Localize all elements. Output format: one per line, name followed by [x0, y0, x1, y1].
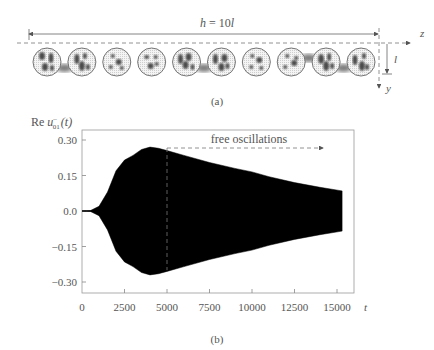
x-tick-label: 2500	[114, 301, 137, 313]
particle-outline	[33, 48, 61, 76]
particle-blob	[249, 65, 253, 69]
particle	[68, 48, 96, 76]
particle-blob	[111, 54, 115, 58]
particle-blob	[74, 54, 79, 64]
particle-blob	[50, 65, 54, 71]
x-tick-label: 15000	[323, 301, 351, 313]
particle-row	[33, 48, 375, 76]
y-tick-label: 0.30	[58, 134, 78, 146]
y-ticks: 0.300.150.0−0.15−0.30	[52, 134, 86, 288]
free-osc-label: free oscillations	[211, 132, 288, 146]
y-title-sub: 01	[53, 123, 61, 131]
y-title-sup: –	[52, 115, 57, 123]
particle-blob	[83, 53, 87, 59]
z-axis-label: z	[419, 27, 425, 39]
particle-blob	[144, 55, 149, 59]
figure: h = 10l z y l (a) Re u–01(t) 0.300.150.0…	[0, 0, 434, 350]
y-axis-title: Re u–01(t)	[31, 115, 72, 131]
panel-b: Re u–01(t) 0.300.150.0−0.15−0.30 0250050…	[31, 115, 368, 346]
x-tick-label: 5000	[156, 301, 179, 313]
y-tick-label: 0.0	[63, 205, 77, 217]
particle-blob	[116, 59, 122, 65]
particle-blob	[327, 53, 331, 61]
particle-blob	[49, 53, 54, 63]
x-axis-title: t	[364, 301, 368, 313]
particle-blob	[294, 56, 298, 60]
particle	[277, 48, 305, 76]
particle-blob	[191, 64, 195, 70]
particle	[33, 48, 61, 76]
particle-blob	[109, 65, 113, 69]
particle-blob	[218, 63, 224, 71]
particle-outline	[277, 48, 305, 76]
x-tick-label: 0	[79, 301, 85, 313]
particle	[103, 48, 131, 76]
particle-blob	[283, 65, 287, 69]
y-tick-label: −0.15	[52, 241, 78, 253]
particle-blob	[186, 53, 192, 61]
particle	[347, 48, 375, 76]
particle-blob	[39, 52, 45, 60]
particle	[242, 48, 270, 76]
particle-blob	[359, 61, 365, 71]
particle	[312, 48, 340, 76]
particle-blob	[178, 54, 183, 64]
particle-blob	[79, 61, 85, 71]
particle-blob	[285, 54, 289, 58]
particle-blob	[221, 54, 227, 62]
particle-blob	[353, 55, 358, 65]
y-title-arg: (t)	[61, 115, 72, 129]
particle-blob	[155, 62, 159, 66]
x-tick-label: 10000	[238, 301, 266, 313]
panel-b-label: (b)	[211, 333, 224, 346]
particle-blob	[259, 66, 263, 70]
particle-outline	[138, 48, 166, 76]
particle	[207, 48, 235, 76]
particle-blob	[291, 60, 297, 66]
span-label-unit: l	[231, 16, 235, 30]
particle	[138, 48, 166, 76]
y-axis-label: y	[385, 82, 391, 94]
height-label: l	[394, 53, 397, 65]
particle-blob	[365, 64, 369, 70]
y-title-prefix: Re	[31, 115, 47, 129]
y-tick-label: −0.30	[52, 276, 78, 288]
y-tick-label: 0.15	[58, 170, 78, 182]
particle-blob	[86, 64, 90, 70]
x-tick-label: 7500	[199, 301, 222, 313]
particle-outline	[242, 48, 270, 76]
particle-blob	[120, 66, 124, 70]
particle-blob	[323, 61, 329, 71]
particle-blob	[256, 57, 262, 63]
particle-outline	[207, 48, 235, 76]
signal-envelope	[82, 147, 342, 275]
particle-blob	[225, 63, 229, 69]
particle	[173, 48, 201, 76]
particle-blob	[250, 54, 254, 58]
particle-blob	[148, 63, 154, 69]
particle-blob	[154, 55, 158, 59]
particle-blob	[42, 63, 48, 71]
x-tick-label: 12500	[281, 301, 309, 313]
span-label: h = 10l	[200, 16, 235, 30]
panel-a-label: (a)	[211, 95, 224, 108]
panel-a: h = 10l z y l (a)	[17, 16, 425, 108]
particle-blob	[213, 54, 218, 64]
particle-blob	[362, 53, 366, 59]
span-label-eq: = 10	[206, 16, 231, 30]
particle-blob	[330, 63, 334, 69]
particle-blob	[183, 61, 189, 69]
particle-blob	[318, 54, 324, 64]
